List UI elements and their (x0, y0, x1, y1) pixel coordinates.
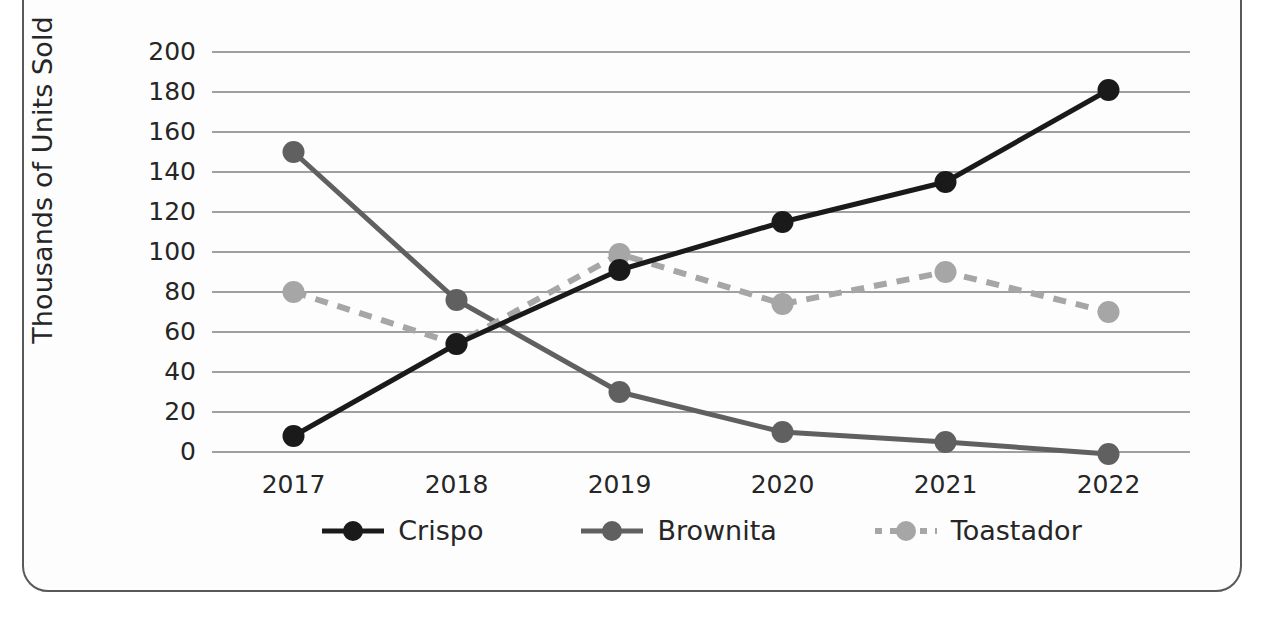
data-point (772, 211, 794, 233)
data-point (772, 421, 794, 443)
data-point (935, 261, 957, 283)
line-chart: Thousands of Units Sold 0204060801001201… (0, 0, 1269, 632)
data-point (935, 431, 957, 453)
data-point (609, 259, 631, 281)
data-point (283, 425, 305, 447)
data-point (446, 333, 468, 355)
data-point (1098, 79, 1120, 101)
legend-marker-icon (320, 518, 386, 544)
legend-label: Brownita (657, 515, 776, 546)
legend-label: Toastador (951, 515, 1082, 546)
legend-item-crispo[interactable]: Crispo (320, 515, 483, 546)
series-toastador (283, 243, 1120, 355)
series-layer (283, 79, 1120, 465)
data-point (1098, 301, 1120, 323)
gridlines (212, 52, 1190, 452)
series-line (294, 152, 1109, 454)
legend-item-toastador[interactable]: Toastador (873, 515, 1082, 546)
data-point (772, 293, 794, 315)
data-point (283, 281, 305, 303)
data-point (935, 171, 957, 193)
legend-marker-icon (579, 518, 645, 544)
series-line (294, 254, 1109, 344)
legend-label: Crispo (398, 515, 483, 546)
data-point (609, 381, 631, 403)
series-brownita (283, 141, 1120, 465)
chart-legend: CrispoBrownitaToastador (212, 515, 1190, 546)
data-point (446, 289, 468, 311)
series-crispo (283, 79, 1120, 447)
data-point (283, 141, 305, 163)
legend-marker-icon (873, 518, 939, 544)
legend-item-brownita[interactable]: Brownita (579, 515, 776, 546)
data-point (1098, 443, 1120, 465)
